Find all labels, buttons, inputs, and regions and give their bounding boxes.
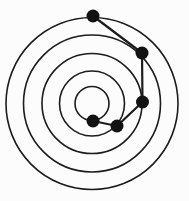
path-node-3 xyxy=(136,96,149,109)
path-node-4 xyxy=(111,120,124,133)
path-node-5 xyxy=(87,115,100,128)
diagram-canvas xyxy=(0,0,189,201)
orbit-ring-5 xyxy=(6,18,178,190)
path-node-1 xyxy=(87,10,100,23)
path-edge-2 xyxy=(142,53,143,102)
orbit-ring-3 xyxy=(42,54,142,154)
concentric-circles-diagram xyxy=(0,0,189,201)
path-node-2 xyxy=(136,47,149,60)
